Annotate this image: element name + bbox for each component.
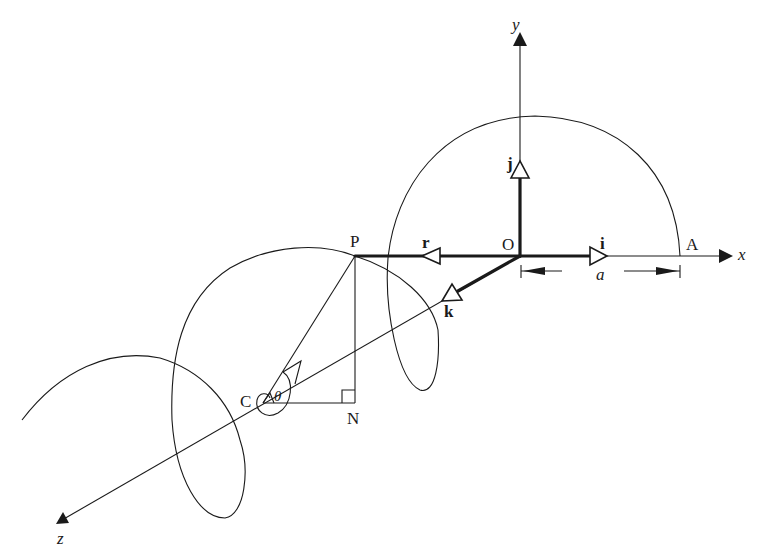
point-C-label: C [240,393,251,410]
diagram-canvas [0,0,757,554]
vector-k-line [458,256,520,291]
dim-a-arrow-right-icon [656,267,678,275]
vector-j-label: j [507,155,513,172]
line-PC [263,256,355,403]
helix-curve-1 [355,116,680,390]
point-O-label: O [502,236,514,253]
right-angle-marker-icon [342,390,355,403]
dimension-a-label: a [596,266,605,283]
x-axis-arrow-icon [719,249,733,263]
vector-r-label: r [422,234,430,251]
dim-a-arrow-left-icon [523,267,545,275]
z-axis-label: z [57,530,64,547]
vector-i-label: i [600,235,605,252]
vector-j-arrowhead-icon [511,161,529,178]
vector-k-label: k [444,303,453,320]
point-N-label: N [347,410,359,427]
point-P-label: P [350,233,359,250]
vector-k-arrowhead-icon [442,284,462,301]
y-axis-arrow-icon [513,32,527,46]
angle-theta-label: θ [274,389,281,404]
y-axis-label: y [512,16,520,33]
x-axis-label: x [738,246,746,263]
helix-curve-2 [22,248,355,518]
theta-arrow-icon [283,361,301,384]
point-A-label: A [686,236,698,253]
z-axis-arrow-icon [56,512,69,524]
